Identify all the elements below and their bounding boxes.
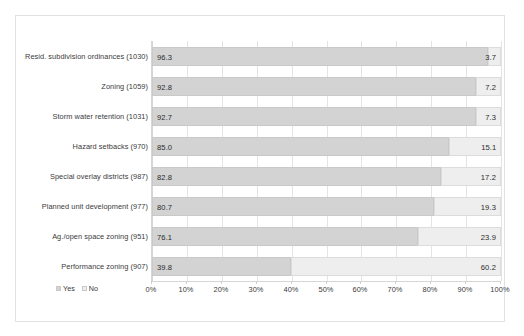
value-axis: 0%10%20%30%40%50%60%70%80%90%100% [151,281,500,297]
bar-row[interactable]: 85.015.1 [152,137,500,156]
bar-row[interactable]: 82.817.2 [152,167,500,186]
bar-value-label: 92.7 [157,112,172,121]
legend-label: Yes [63,284,75,293]
bar-row[interactable]: 96.33.7 [152,47,500,66]
bar-value-label: 39.8 [157,262,172,271]
axis-tick-label: 90% [457,285,472,294]
bar-value-label: 7.2 [485,82,496,91]
bar-row[interactable]: 76.123.9 [152,227,500,246]
bar-value-label: 60.2 [481,262,496,271]
bar-segment-no[interactable]: 60.2 [291,257,501,276]
category-label: Zoning (1059) [18,82,148,92]
axis-tick-label: 40% [283,285,298,294]
legend-swatch-icon [56,286,61,291]
bar-value-label: 7.3 [485,112,496,121]
axis-tick-label: 100% [490,285,509,294]
bar-segment-yes[interactable]: 96.3 [152,47,488,66]
bar-segment-yes[interactable]: 80.7 [152,197,434,216]
chart-legend: YesNo [56,282,98,294]
bar-value-label: 17.2 [481,172,496,181]
bar-value-label: 82.8 [157,172,172,181]
bar-value-label: 85.0 [157,142,172,151]
axis-tick-label: 0% [146,285,157,294]
category-label: Ag./open space zoning (951) [18,232,148,242]
bar-value-label: 92.8 [157,82,172,91]
category-label: Special overlay districts (987) [18,172,148,182]
bar-value-label: 80.7 [157,202,172,211]
bar-segment-no[interactable]: 7.3 [476,107,501,126]
category-label: Performance zoning (907) [18,262,148,272]
axis-tick-label: 70% [387,285,402,294]
axis-tick-mark [395,281,396,284]
bar-value-label: 23.9 [481,232,496,241]
bar-segment-yes[interactable]: 92.7 [152,107,476,126]
gridline [501,41,502,281]
bar-segment-yes[interactable]: 82.8 [152,167,441,186]
axis-tick-mark [186,281,187,284]
bar-segment-yes[interactable]: 39.8 [152,257,291,276]
bar-segment-yes[interactable]: 85.0 [152,137,449,156]
bar-row[interactable]: 92.77.3 [152,107,500,126]
chart-container: Resid. subdivision ordinances (1030)Zoni… [0,0,524,336]
bar-segment-no[interactable]: 23.9 [418,227,501,246]
bar-row[interactable]: 80.719.3 [152,197,500,216]
axis-tick-mark [360,281,361,284]
legend-item-no[interactable]: No [82,284,98,293]
category-label: Hazard setbacks (970) [18,142,148,152]
bar-segment-no[interactable]: 19.3 [434,197,501,216]
axis-tick-mark [151,281,152,284]
legend-swatch-icon [82,286,87,291]
bar-value-label: 15.1 [481,142,496,151]
bar-value-label: 76.1 [157,232,172,241]
axis-tick-label: 20% [213,285,228,294]
bar-segment-no[interactable]: 3.7 [488,47,501,66]
axis-tick-mark [500,281,501,284]
bar-segment-no[interactable]: 15.1 [449,137,502,156]
axis-tick-mark [326,281,327,284]
legend-item-yes[interactable]: Yes [56,284,75,293]
plot-area: 96.33.792.87.292.77.385.015.182.817.280.… [151,41,500,281]
axis-tick-mark [256,281,257,284]
axis-tick-label: 60% [352,285,367,294]
bar-value-label: 19.3 [481,202,496,211]
axis-tick-label: 80% [422,285,437,294]
bar-row[interactable]: 39.860.2 [152,257,500,276]
bar-segment-no[interactable]: 7.2 [476,77,501,96]
bar-segment-no[interactable]: 17.2 [441,167,501,186]
axis-tick-mark [430,281,431,284]
category-label: Resid. subdivision ordinances (1030) [18,52,148,62]
bar-value-label: 96.3 [157,52,172,61]
axis-tick-label: 10% [178,285,193,294]
category-label: Planned unit development (977) [18,202,148,212]
bar-value-label: 3.7 [485,52,496,61]
bar-segment-yes[interactable]: 76.1 [152,227,418,246]
axis-tick-label: 30% [248,285,263,294]
axis-tick-label: 50% [318,285,333,294]
category-label: Storm water retention (1031) [18,112,148,122]
bar-segment-yes[interactable]: 92.8 [152,77,476,96]
legend-label: No [89,284,98,293]
axis-tick-mark [291,281,292,284]
category-axis: Resid. subdivision ordinances (1030)Zoni… [18,41,148,281]
axis-tick-mark [465,281,466,284]
bar-row[interactable]: 92.87.2 [152,77,500,96]
axis-tick-mark [221,281,222,284]
